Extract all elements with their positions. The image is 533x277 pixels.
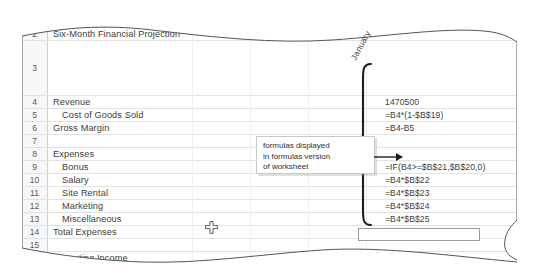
cell-formula-row-5[interactable]: =B4*(1-$B$19)	[385, 109, 443, 121]
row-header-14[interactable]: 14	[22, 226, 48, 238]
table-row[interactable]: 1Manola Department	[22, 15, 517, 28]
table-row[interactable]: 5Cost of Goods Sold=B4*(1-$B$19)	[22, 109, 517, 122]
cell-formula-row-16[interactable]: =B6-B14	[385, 252, 419, 264]
table-row[interactable]: 13Miscellaneous=B4*$B$25	[22, 213, 517, 226]
row-header-7[interactable]: 7	[22, 135, 48, 147]
cell-label-row-6[interactable]: Gross Margin	[53, 122, 109, 134]
cell-formula-row-12[interactable]: =B4*$B$24	[385, 200, 430, 212]
table-row[interactable]: 16Operating Income=B6-B14	[22, 252, 517, 265]
row-header-16[interactable]: 16	[22, 252, 48, 264]
cell-label-row-1[interactable]: Manola Department	[53, 15, 135, 27]
cell-label-row-8[interactable]: Expenses	[53, 148, 94, 160]
callout-arrow-icon	[374, 152, 404, 162]
cell-label-row-11[interactable]: Site Rental	[62, 187, 108, 199]
selected-empty-cell[interactable]	[358, 228, 480, 241]
table-row[interactable]: 17	[22, 265, 517, 268]
cell-label-row-10[interactable]: Salary	[62, 174, 89, 186]
row-header-8[interactable]: 8	[22, 148, 48, 160]
callout-line-1: formulas displayed	[263, 141, 368, 152]
row-header-12[interactable]: 12	[22, 200, 48, 212]
row-header-1[interactable]: 1	[22, 15, 48, 27]
cell-formula-row-11[interactable]: =B4*$B$23	[385, 187, 430, 199]
table-row[interactable]: 12Marketing=B4*$B$24	[22, 200, 517, 213]
row-header-5[interactable]: 5	[22, 109, 48, 121]
table-row[interactable]: 2Six-Month Financial Projection	[22, 28, 517, 41]
cell-label-row-14[interactable]: Total Expenses	[53, 226, 117, 238]
table-row[interactable]: 6Gross Margin=B4-B5	[22, 122, 517, 135]
row-header-15[interactable]: 15	[22, 239, 48, 251]
row-header-6[interactable]: 6	[22, 122, 48, 134]
table-row[interactable]: 3	[22, 41, 517, 96]
worksheet-excerpt-figure: 1Manola Department2Six-Month Financial P…	[0, 0, 533, 277]
cell-formula-row-9[interactable]: =IF(B4>=$B$21,$B$20,0)	[385, 161, 485, 173]
row-header-10[interactable]: 10	[22, 174, 48, 186]
cell-label-row-12[interactable]: Marketing	[62, 200, 103, 212]
callout-box: formulas displayed in formulas version o…	[256, 136, 375, 174]
row-header-11[interactable]: 11	[22, 187, 48, 199]
callout-line-3: of worksheet	[263, 162, 368, 173]
table-row[interactable]: 4Revenue1470500	[22, 96, 517, 109]
row-header-17[interactable]: 17	[22, 265, 48, 268]
cell-label-row-5[interactable]: Cost of Goods Sold	[62, 109, 143, 121]
cell-label-row-2[interactable]: Six-Month Financial Projection	[53, 28, 180, 40]
row-header-9[interactable]: 9	[22, 161, 48, 173]
row-header-13[interactable]: 13	[22, 213, 48, 225]
row-header-4[interactable]: 4	[22, 96, 48, 108]
cell-formula-row-4[interactable]: 1470500	[385, 96, 419, 108]
cell-formula-row-13[interactable]: =B4*$B$25	[385, 213, 430, 225]
column-separator	[250, 10, 251, 268]
table-row[interactable]: 10Salary=B4*$B$22	[22, 174, 517, 187]
cell-label-row-16[interactable]: Operating Income	[53, 252, 128, 264]
cell-formula-row-10[interactable]: =B4*$B$22	[385, 174, 430, 186]
column-separator	[192, 10, 193, 268]
cell-label-row-13[interactable]: Miscellaneous	[62, 213, 122, 225]
table-row[interactable]: 11Site Rental=B4*$B$23	[22, 187, 517, 200]
callout-line-2: in formulas version	[263, 152, 368, 163]
cell-label-row-9[interactable]: Bonus	[62, 161, 89, 173]
move-plus-cursor-icon	[205, 221, 218, 234]
cell-formula-row-6[interactable]: =B4-B5	[385, 122, 415, 134]
row-header-3[interactable]: 3	[22, 41, 48, 95]
cell-label-row-4[interactable]: Revenue	[53, 96, 90, 108]
row-header-2[interactable]: 2	[22, 28, 48, 40]
